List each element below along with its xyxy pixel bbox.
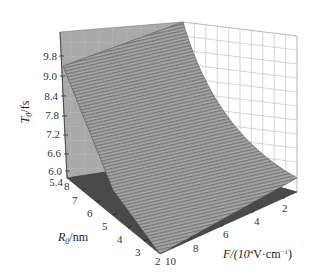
- surface-plot: 9.8 9.0 8.4 7.8 7.2 6.6 6.0 5.4 T0/fs 8 …: [0, 0, 314, 279]
- r-tick: 2: [155, 255, 161, 267]
- z-tick: 6.6: [47, 147, 61, 159]
- z-tick: 5.4: [49, 176, 63, 188]
- r-tick: 5: [102, 220, 108, 232]
- f-tick: 4: [254, 215, 260, 227]
- f-tick: 6: [223, 228, 229, 240]
- r-tick: 3: [135, 246, 141, 258]
- f-axis-label: F/(104V·cm−1): [222, 247, 292, 261]
- f-tick: 2: [282, 202, 288, 214]
- f-label-prefix: F/(10: [222, 247, 250, 261]
- r-axis-label: R0/nm: [57, 230, 89, 246]
- r-label-unit: /nm: [69, 230, 88, 244]
- f-label-suffix: ): [288, 247, 292, 261]
- z-tick: 7.8: [45, 109, 59, 121]
- r-tick: 7: [72, 194, 78, 206]
- z-tick: 9.0: [43, 70, 57, 82]
- z-tick: 8.4: [44, 90, 58, 102]
- z-tick: 9.8: [43, 50, 57, 62]
- r-tick: 8: [64, 180, 70, 192]
- z-label-unit: /fs: [18, 100, 32, 112]
- f-tick: 8: [193, 242, 199, 254]
- f-label-mid: V·cm: [253, 247, 281, 261]
- f-tick: 10: [165, 255, 177, 267]
- r-tick: 4: [117, 233, 123, 245]
- z-tick: 7.2: [46, 128, 60, 140]
- r-tick: 6: [87, 207, 93, 219]
- z-axis-label: T0/fs: [18, 100, 34, 123]
- svg-text:T0/fs: T0/fs: [18, 100, 34, 123]
